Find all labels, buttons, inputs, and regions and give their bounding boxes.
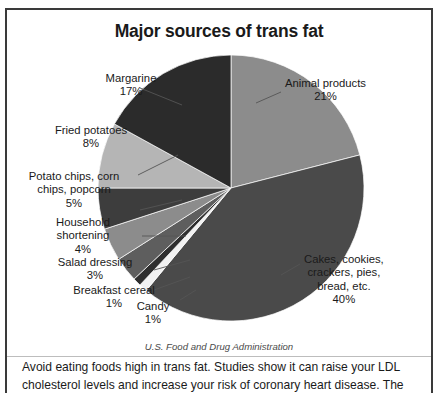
pie-label-margarine: Margarine 17% [90,72,172,99]
pie-label-fried-potatoes: Fried potatoes 8% [44,124,138,151]
pie-label-household-shortening-line2: shortening [30,229,136,242]
figure-caption: Avoid eating foods high in trans fat. St… [22,359,420,393]
pie-label-candy: Candy 1% [126,300,180,327]
pie-label-animal-products-text: Animal products [285,77,366,89]
pie-label-salad-dressing-value: 3% [42,269,148,282]
pie-label-potato-chips: Potato chips, corn chips, popcorn 5% [12,170,136,210]
pie-label-cakes-line2: crackers, pies, [307,266,380,278]
pie-label-cakes-line3: bread, etc. [317,280,370,292]
pie-label-potato-chips-line1: Potato chips, corn [29,170,119,182]
pie-label-potato-chips-value: 5% [12,197,136,210]
pie-label-animal-products-value: 21% [285,90,366,103]
pie-label-cakes-value: 40% [333,293,356,305]
pie-label-candy-value: 1% [126,313,180,326]
pie-label-breakfast-cereal-text: Breakfast cereal [73,284,155,296]
pie-label-salad-dressing-text: Salad dressing [58,256,133,268]
pie-label-candy-text: Candy [137,300,170,312]
pie-label-household-shortening-value: 4% [30,243,136,256]
pie-label-animal-products: Animal products 21% [285,77,366,104]
trans-fat-pie-chart-figure: Major sources of trans fat Animal produc… [0,0,438,393]
pie-label-margarine-text: Margarine [106,72,157,84]
pie-label-fried-potatoes-value: 8% [44,137,138,150]
pie-label-fried-potatoes-text: Fried potatoes [55,124,127,136]
pie-label-potato-chips-line2: chips, popcorn [12,183,136,196]
pie-label-margarine-value: 17% [90,85,172,98]
caption-divider [7,356,431,357]
pie-label-cakes: Cakes, cookies, crackers, pies, bread, e… [304,253,384,307]
pie-label-household-shortening: Household shortening 4% [30,216,136,256]
pie-label-cakes-line1: Cakes, cookies, [304,253,384,265]
chart-source-attribution: U.S. Food and Drug Administration [0,341,438,352]
pie-label-household-shortening-line1: Household [56,216,110,228]
pie-label-salad-dressing: Salad dressing 3% [42,256,148,283]
